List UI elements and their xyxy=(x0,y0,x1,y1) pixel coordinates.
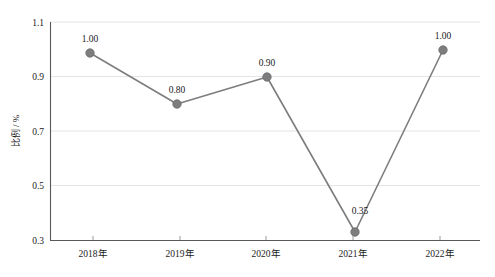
y-axis-title: 比例 / % xyxy=(10,114,21,147)
y-tick-label-4: 0.3 xyxy=(32,236,44,246)
data-label-4: 1.00 xyxy=(435,31,452,41)
chart-background xyxy=(0,0,495,277)
data-point-1[interactable] xyxy=(173,100,181,108)
data-label-2: 0.90 xyxy=(259,58,276,68)
x-tick-label-3: 2021年 xyxy=(339,248,368,259)
data-point-4[interactable] xyxy=(439,46,447,54)
chart-canvas: 1.1 0.9 0.7 0.5 0.3 2018年 2019年 2020年 20… xyxy=(0,0,495,277)
data-point-3[interactable] xyxy=(351,228,359,236)
data-label-1: 0.80 xyxy=(169,85,186,95)
y-tick-label-3: 0.5 xyxy=(32,181,44,191)
data-point-2[interactable] xyxy=(263,73,271,81)
y-tick-label-0: 1.1 xyxy=(32,18,44,28)
y-tick-label-1: 0.9 xyxy=(32,72,44,82)
x-tick-label-1: 2019年 xyxy=(166,248,195,259)
data-point-0[interactable] xyxy=(86,49,94,57)
x-tick-label-0: 2018年 xyxy=(79,248,108,259)
data-label-3: 0.35 xyxy=(352,206,369,216)
data-label-0: 1.00 xyxy=(82,34,99,44)
y-tick-label-2: 0.7 xyxy=(32,127,44,137)
x-tick-label-2: 2020年 xyxy=(252,248,281,259)
x-tick-label-4: 2022年 xyxy=(426,248,455,259)
line-chart: 1.1 0.9 0.7 0.5 0.3 2018年 2019年 2020年 20… xyxy=(0,0,495,277)
